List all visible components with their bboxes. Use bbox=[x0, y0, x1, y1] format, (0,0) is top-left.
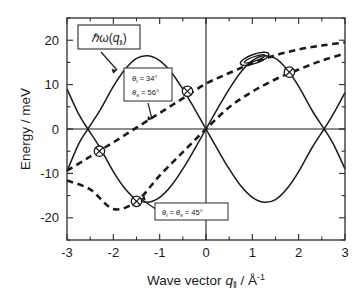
lower-equals: = bbox=[169, 208, 174, 217]
theta-i-value: = 34° bbox=[139, 74, 157, 83]
y-tick-label: -20 bbox=[40, 210, 59, 225]
x-tick-label: -3 bbox=[61, 245, 73, 260]
y-tick-label: 10 bbox=[45, 77, 59, 92]
x-tick-label: 1 bbox=[249, 245, 256, 260]
x-title-prefix: Wave vector bbox=[147, 273, 222, 288]
x-tick-label: -1 bbox=[154, 245, 166, 260]
dispersion-label: ℏω(q‖) bbox=[78, 25, 140, 49]
x-tick-label: 0 bbox=[202, 245, 209, 260]
lower-angle-annotation: θi=θs= 45° bbox=[155, 203, 228, 220]
upper-angle-line1: θi= 34° bbox=[132, 74, 157, 84]
x-tick-label: 3 bbox=[341, 245, 348, 260]
y-tick-label: 20 bbox=[45, 33, 59, 48]
phonon-dispersion-figure: -3-2-10123 20100-10-20 ℏω(q‖) bbox=[0, 0, 364, 302]
upper-angle-annotation: θi= 34° θs= 56° bbox=[124, 68, 172, 101]
x-axis-title: Wave vectorq‖ / Å-1 bbox=[147, 272, 265, 290]
lower-theta-s-subscript: s bbox=[180, 212, 183, 218]
omega-symbol: ω bbox=[99, 31, 108, 45]
y-tick-label: 0 bbox=[52, 122, 59, 137]
chart-canvas: -3-2-10123 20100-10-20 ℏω(q‖) bbox=[0, 0, 364, 302]
theta-s-value: = 56° bbox=[141, 88, 159, 97]
x-title-unit: / Å bbox=[237, 273, 257, 288]
y-axis-title: Energy / meV bbox=[18, 88, 33, 170]
x-tick-label: -2 bbox=[108, 245, 120, 260]
y-tick-label: -10 bbox=[40, 166, 59, 181]
x-tick-label: 2 bbox=[295, 245, 302, 260]
lower-angle-value: = 45° bbox=[185, 208, 203, 217]
x-title-unit-sup: -1 bbox=[257, 272, 265, 282]
theta-s-subscript: s bbox=[136, 92, 139, 98]
arg-close-paren: ) bbox=[123, 31, 127, 45]
upper-angle-line2: θs= 56° bbox=[132, 88, 159, 98]
